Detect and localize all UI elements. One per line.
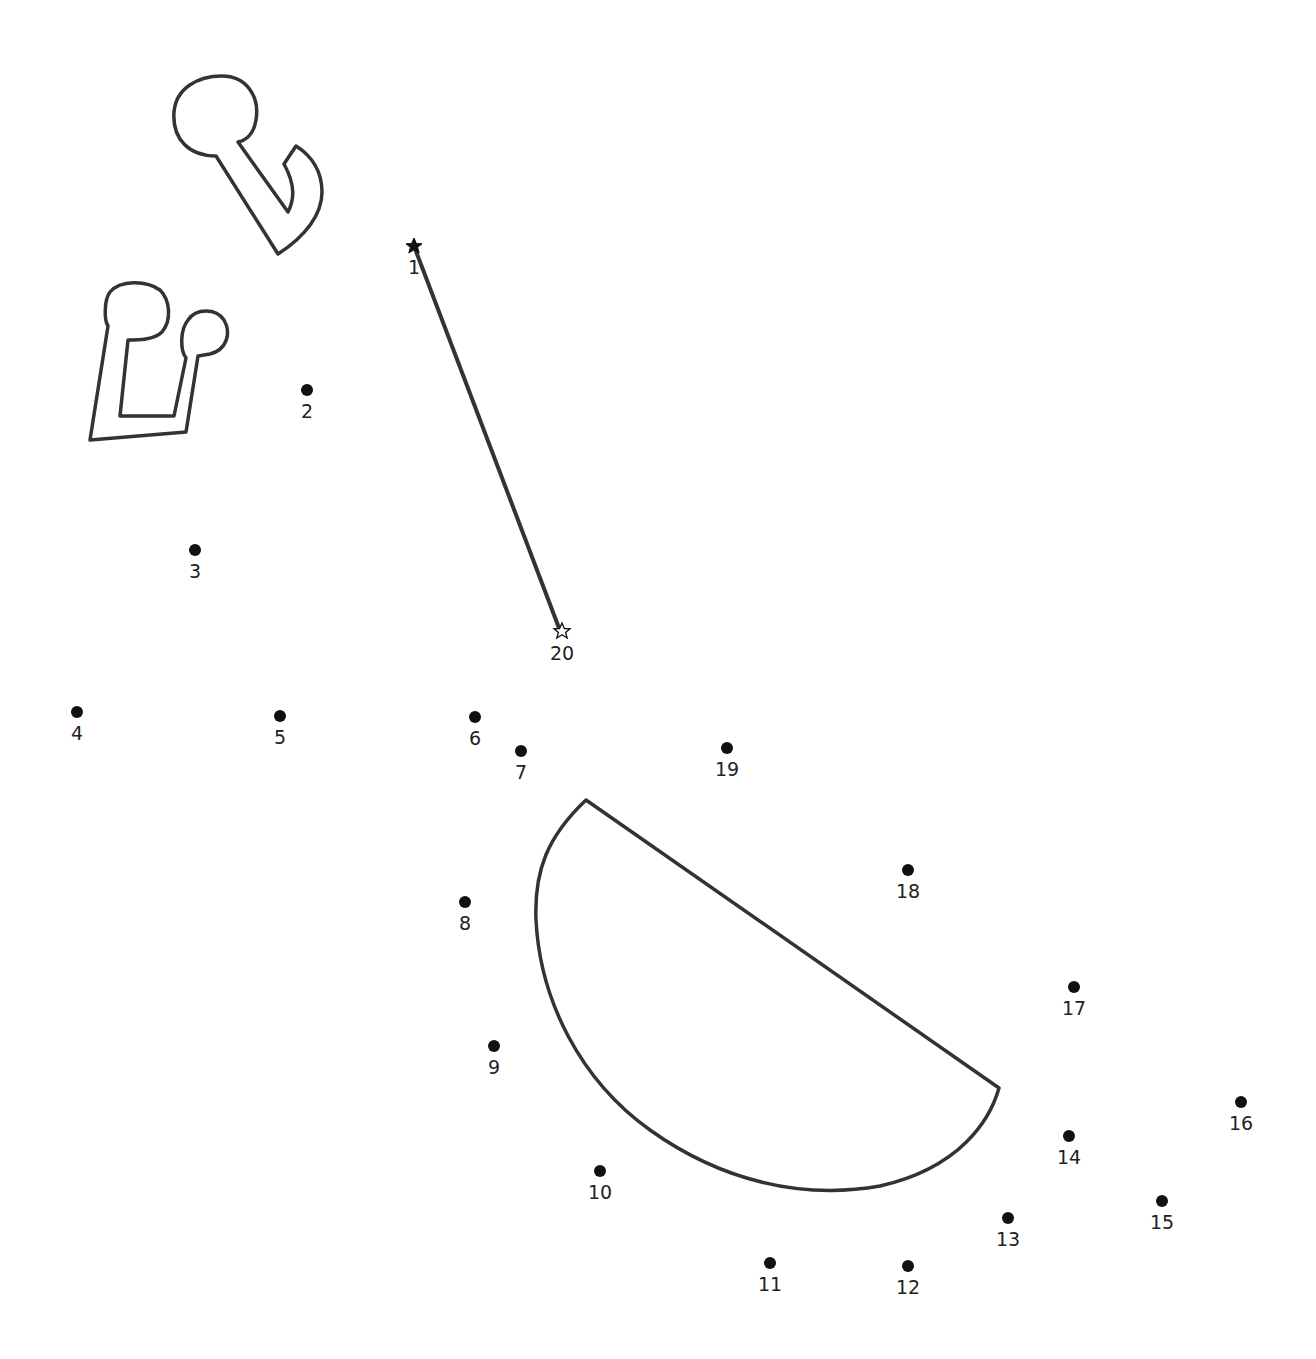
- puzzle-dot: [764, 1257, 776, 1269]
- dot-number-label: 3: [189, 562, 201, 581]
- puzzle-dot: [1235, 1096, 1247, 1108]
- dot-number-label: 11: [758, 1275, 782, 1294]
- dot-number-label: 14: [1057, 1148, 1081, 1167]
- puzzle-dot: [488, 1040, 500, 1052]
- dot-number-label: 19: [715, 760, 739, 779]
- dot-number-label: 9: [488, 1058, 500, 1077]
- dot-number-label: 1: [408, 258, 420, 277]
- puzzle-dot: [1063, 1130, 1075, 1142]
- puzzle-dot: [1156, 1195, 1168, 1207]
- puzzle-dot: [721, 742, 733, 754]
- dot-number-label: 2: [301, 402, 313, 421]
- connector-line-1-20: [414, 246, 559, 628]
- puzzle-dot: [594, 1165, 606, 1177]
- puzzle-dot: [189, 544, 201, 556]
- puzzle-dot: [1002, 1212, 1014, 1224]
- dot-number-label: 20: [550, 644, 574, 663]
- half-moon-outline: [536, 800, 999, 1190]
- dot-number-label: 17: [1062, 999, 1086, 1018]
- puzzle-dot: [71, 706, 83, 718]
- puzzle-dot: [902, 864, 914, 876]
- dot-number-label: 8: [459, 914, 471, 933]
- puzzle-dot: [469, 711, 481, 723]
- dot-number-label: 10: [588, 1183, 612, 1202]
- puzzle-dot: [515, 745, 527, 757]
- hook-outline: [174, 76, 322, 254]
- puzzle-dot: [301, 384, 313, 396]
- dot-number-label: 7: [515, 763, 527, 782]
- dot-number-label: 18: [896, 882, 920, 901]
- claw-outline: [90, 283, 228, 440]
- puzzle-dot: [902, 1260, 914, 1272]
- dot-number-label: 4: [71, 724, 83, 743]
- dot-number-label: 5: [274, 728, 286, 747]
- dot-number-label: 12: [896, 1278, 920, 1297]
- puzzle-dot: [1068, 981, 1080, 993]
- puzzle-drawing: [0, 0, 1316, 1359]
- dot-number-label: 15: [1150, 1213, 1174, 1232]
- puzzle-dot: [274, 710, 286, 722]
- dot-number-label: 6: [469, 729, 481, 748]
- dot-number-label: 13: [996, 1230, 1020, 1249]
- puzzle-dot: [459, 896, 471, 908]
- dot-number-label: 16: [1229, 1114, 1253, 1133]
